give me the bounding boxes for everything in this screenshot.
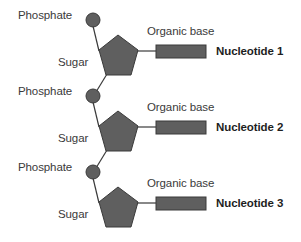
- organic-base-label-1: Organic base: [147, 26, 214, 38]
- phosphate-label-3: Phosphate: [18, 162, 72, 174]
- phosphate-circle: [86, 13, 100, 27]
- sugar-label-2: Sugar: [58, 133, 88, 145]
- phosphate-sugar-bond: [93, 178, 99, 203]
- nucleotide-label-2: Nucleotide 2: [216, 122, 283, 134]
- sugar-next-phosphate-bond: [96, 74, 107, 92]
- organic-base-label-2: Organic base: [147, 102, 214, 114]
- sugar-pentagon: [99, 35, 138, 75]
- sugar-label-1: Sugar: [58, 57, 88, 69]
- organic-base-rect: [156, 121, 206, 134]
- sugar-pentagon: [99, 111, 138, 151]
- nucleotide-label-3: Nucleotide 3: [216, 198, 283, 210]
- nucleotide-unit-3: [86, 165, 206, 227]
- sugar-next-phosphate-bond: [96, 150, 107, 168]
- sugar-pentagon: [99, 187, 138, 227]
- sugar-label-3: Sugar: [58, 209, 88, 221]
- phosphate-circle: [86, 165, 100, 179]
- organic-base-rect: [156, 197, 206, 210]
- phosphate-label-1: Phosphate: [18, 10, 72, 22]
- nucleotide-label-1: Nucleotide 1: [216, 46, 283, 58]
- phosphate-sugar-bond: [93, 102, 99, 127]
- organic-base-label-3: Organic base: [147, 178, 214, 190]
- organic-base-rect: [156, 45, 206, 58]
- phosphate-circle: [86, 89, 100, 103]
- phosphate-sugar-bond: [93, 26, 99, 51]
- phosphate-label-2: Phosphate: [18, 86, 72, 98]
